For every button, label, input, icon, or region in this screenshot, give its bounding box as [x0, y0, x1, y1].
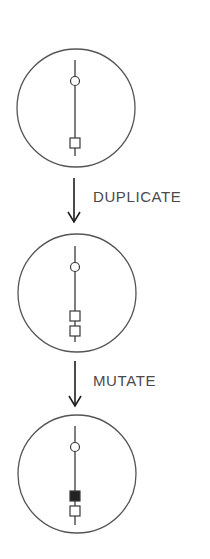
gene-duplication-diagram — [0, 0, 210, 559]
stage-original — [17, 49, 135, 167]
mutate-label: MUTATE — [93, 373, 156, 388]
duplicate-label: DUPLICATE — [93, 189, 181, 204]
stages — [17, 49, 136, 533]
centromere-marker — [71, 77, 80, 86]
gene-box — [70, 138, 80, 148]
stage-duplicated — [18, 234, 136, 352]
gene-box — [70, 506, 80, 516]
centromere-marker — [71, 443, 80, 452]
centromere-marker — [71, 263, 80, 272]
gene-box — [70, 326, 80, 336]
down-arrow-icon — [68, 178, 80, 222]
mutated-gene-box — [70, 491, 80, 501]
gene-box — [70, 311, 80, 321]
cell-outline — [17, 49, 135, 167]
down-arrow-icon — [69, 361, 81, 406]
stage-mutated — [18, 415, 136, 533]
